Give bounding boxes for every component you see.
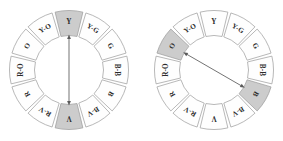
color-wheel-left: YY-GGB-BBB-VVR-VRR-OOY-O xyxy=(0,0,142,141)
segment-label-y: Y xyxy=(211,18,217,26)
complement-arrow-line xyxy=(185,54,242,87)
segment-label-y: Y xyxy=(66,18,72,26)
segment-label-bb: B-B xyxy=(113,64,121,76)
segment-label-v: V xyxy=(66,114,72,122)
wheel-left-svg: YY-GGB-BBB-VVR-VRR-OOY-O xyxy=(0,0,142,141)
segment-label-ro: R-O xyxy=(17,63,25,77)
segment-label-v: V xyxy=(211,114,217,122)
wheel-right-svg: YY-GGB-BBB-VVR-VRR-OOY-O xyxy=(141,0,283,141)
figure-canvas: YY-GGB-BBB-VVR-VRR-OOY-O YY-GGB-BBB-VVR-… xyxy=(0,0,283,141)
segment-label-bb: B-B xyxy=(258,64,266,76)
segment-label-ro: R-O xyxy=(162,63,170,77)
color-wheel-right: YY-GGB-BBB-VVR-VRR-OOY-O xyxy=(141,0,283,141)
